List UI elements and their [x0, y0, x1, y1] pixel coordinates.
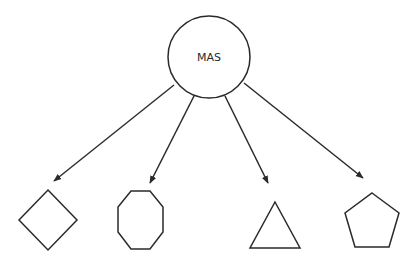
arrow-to-triangle	[225, 96, 268, 183]
diamond-shape	[19, 190, 77, 250]
root-label: MAS	[197, 51, 221, 64]
pentagon-shape	[345, 193, 399, 247]
triangle-shape	[250, 202, 300, 248]
arrow-to-diamond	[54, 85, 174, 181]
arrow-to-octagon	[150, 96, 194, 183]
diagram-canvas: MAS	[0, 0, 416, 262]
octagon-shape	[118, 191, 163, 249]
arrow-to-pentagon	[244, 83, 363, 178]
root-node-mas: MAS	[168, 16, 250, 98]
